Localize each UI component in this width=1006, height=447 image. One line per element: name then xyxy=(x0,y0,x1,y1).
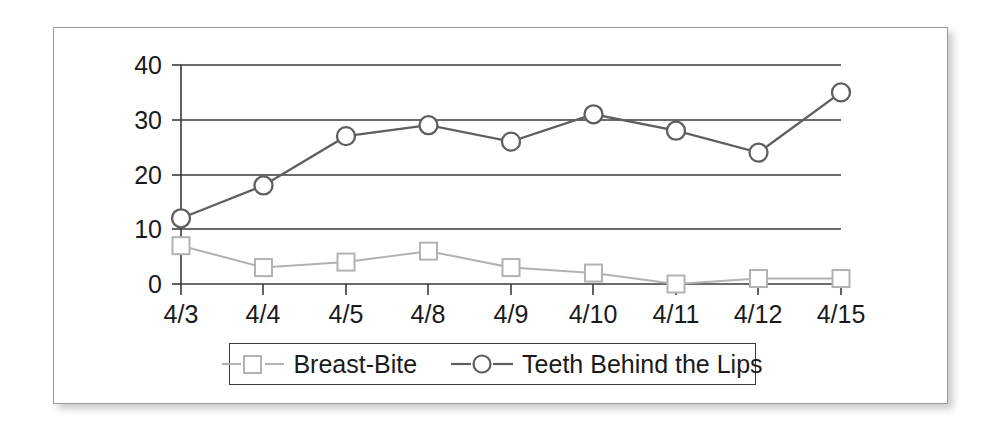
x-axis-label-4: 4/9 xyxy=(494,300,529,328)
x-tick-marks xyxy=(181,284,841,295)
data-point xyxy=(585,105,603,123)
data-point xyxy=(503,259,520,276)
square-marker-icon xyxy=(222,353,284,375)
x-axis-label-2: 4/5 xyxy=(329,300,364,328)
y-axis-label-20: 20 xyxy=(134,161,162,189)
legend-entry-teeth-behind-the-lips[interactable]: Teeth Behind the Lips xyxy=(451,352,762,377)
data-point xyxy=(832,83,850,101)
circle-marker-icon xyxy=(451,353,513,375)
data-point xyxy=(833,270,850,287)
series-line-teeth-behind-the-lips xyxy=(181,92,841,218)
x-axis-label-0: 4/3 xyxy=(164,300,199,328)
data-point xyxy=(668,276,685,293)
data-point xyxy=(338,254,355,271)
data-point xyxy=(420,116,438,134)
data-point xyxy=(255,259,272,276)
data-point xyxy=(502,133,520,151)
x-axis-label-1: 4/4 xyxy=(246,300,281,328)
x-axis-label-7: 4/12 xyxy=(734,300,783,328)
x-axis-label-6: 4/11 xyxy=(653,300,700,328)
data-point xyxy=(255,176,273,194)
y-axis-label-10: 10 xyxy=(134,215,162,243)
y-axis-label-40: 40 xyxy=(134,51,162,79)
y-axis-labels: 40 30 20 10 0 xyxy=(134,51,162,298)
screenshot-root: 40 30 20 10 0 xyxy=(0,0,1006,447)
y-axis-label-0: 0 xyxy=(148,270,162,298)
legend-label-breast-bite: Breast-Bite xyxy=(293,352,417,377)
chart-legend: Breast-Bite Teeth Behind the Lips xyxy=(229,343,756,385)
x-axis-label-8: 4/15 xyxy=(817,300,866,328)
x-axis-label-5: 4/10 xyxy=(569,300,618,328)
data-point xyxy=(750,270,767,287)
data-point xyxy=(337,127,355,145)
series-markers-teeth-behind-the-lips xyxy=(172,83,850,227)
legend-label-teeth-behind-the-lips: Teeth Behind the Lips xyxy=(522,352,762,377)
data-point xyxy=(585,265,602,282)
legend-entry-breast-bite[interactable]: Breast-Bite xyxy=(222,352,417,377)
y-axis-label-30: 30 xyxy=(134,106,162,134)
chart-card: 40 30 20 10 0 xyxy=(53,27,948,404)
data-point xyxy=(750,144,768,162)
x-axis-label-3: 4/8 xyxy=(411,300,446,328)
x-axis-labels: 4/3 4/4 4/5 4/8 4/9 4/10 4/11 4/12 4/15 xyxy=(164,300,866,328)
data-point xyxy=(172,209,190,227)
data-point xyxy=(173,237,190,254)
data-point xyxy=(667,122,685,140)
data-point xyxy=(420,243,437,260)
